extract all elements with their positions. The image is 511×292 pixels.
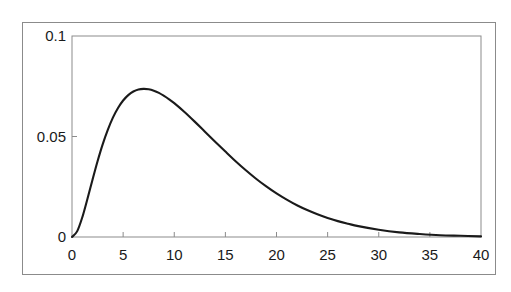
cut-off-heading-strip: mnmn nmnmn [0, 0, 511, 11]
x-tick-label: 30 [354, 246, 404, 263]
x-tick-label: 25 [303, 246, 353, 263]
y-tick-label: 0 [23, 228, 66, 245]
y-tick-label: 0.05 [23, 128, 66, 145]
figure-outer-frame: 0510152025303540 00.050.1 [22, 22, 496, 275]
plot-axes-box [72, 36, 481, 237]
y-tick-label: 0.1 [23, 27, 66, 44]
x-tick-label: 5 [98, 246, 148, 263]
x-tick-label: 20 [252, 246, 302, 263]
chart-plot-svg [23, 23, 497, 276]
x-tick-label: 0 [47, 246, 97, 263]
x-tick-label: 10 [149, 246, 199, 263]
x-tick-label: 40 [456, 246, 506, 263]
x-tick-label: 35 [405, 246, 455, 263]
cut-off-heading-text: mnmn nmnmn [36, 0, 221, 5]
x-tick-label: 15 [200, 246, 250, 263]
chart-figure: 0510152025303540 00.050.1 [23, 23, 497, 276]
